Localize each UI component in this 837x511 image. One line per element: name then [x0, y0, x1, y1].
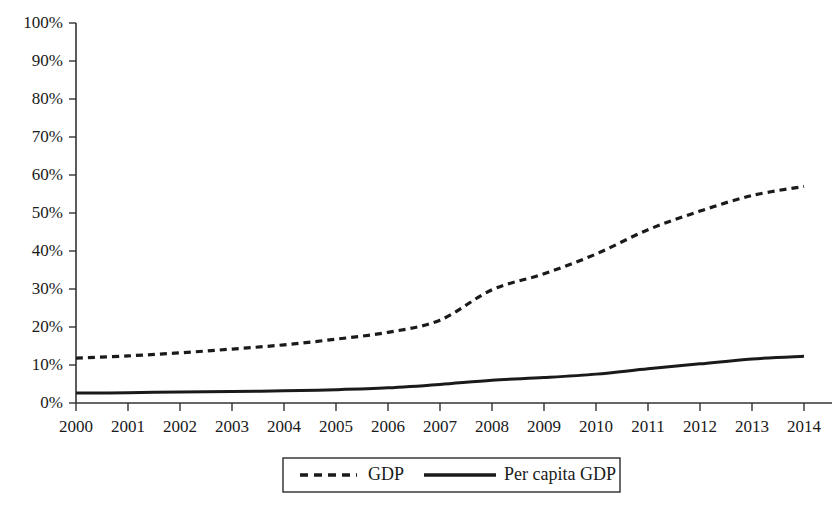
y-tick-label: 50%	[32, 203, 63, 222]
y-tick-label: 70%	[32, 127, 63, 146]
x-tick-label: 2003	[215, 417, 249, 436]
x-tick-label: 2006	[371, 417, 405, 436]
legend-item-per-capita-gdp[interactable]: Per capita GDP	[424, 464, 616, 484]
legend-label: Per capita GDP	[504, 464, 616, 484]
y-tick-label: 90%	[32, 51, 63, 70]
legend-item-gdp[interactable]: GDP	[300, 464, 404, 484]
y-tick-label: 60%	[32, 165, 63, 184]
x-axis: 2000200120022003200420052006200720082009…	[59, 403, 832, 436]
line-chart: 0%10%20%30%40%50%60%70%80%90%100% 200020…	[0, 0, 837, 511]
y-tick-label: 30%	[32, 279, 63, 298]
y-tick-label: 40%	[32, 241, 63, 260]
y-tick-label: 80%	[32, 89, 63, 108]
x-tick-label: 2013	[735, 417, 769, 436]
x-tick-label: 2014	[787, 417, 822, 436]
x-tick-label: 2001	[111, 417, 145, 436]
x-tick-label: 2012	[683, 417, 717, 436]
x-tick-label: 2011	[631, 417, 664, 436]
plot-series-group	[76, 186, 804, 393]
series-line-per-capita-gdp	[76, 356, 804, 393]
y-tick-label: 0%	[40, 393, 63, 412]
y-axis: 0%10%20%30%40%50%60%70%80%90%100%	[23, 13, 76, 412]
legend-label: GDP	[368, 464, 404, 484]
y-tick-label: 100%	[23, 13, 63, 32]
x-tick-label: 2002	[163, 417, 197, 436]
x-tick-label: 2008	[475, 417, 509, 436]
series-line-gdp	[76, 186, 804, 358]
x-tick-label: 2009	[527, 417, 561, 436]
chart-container: 0%10%20%30%40%50%60%70%80%90%100% 200020…	[0, 0, 837, 511]
x-tick-label: 2004	[267, 417, 302, 436]
chart-legend: GDPPer capita GDP	[283, 458, 620, 492]
x-tick-label: 2010	[579, 417, 613, 436]
x-tick-label: 2005	[319, 417, 353, 436]
x-tick-label: 2007	[423, 417, 458, 436]
y-tick-label: 10%	[32, 355, 63, 374]
x-tick-label: 2000	[59, 417, 93, 436]
y-tick-label: 20%	[32, 317, 63, 336]
